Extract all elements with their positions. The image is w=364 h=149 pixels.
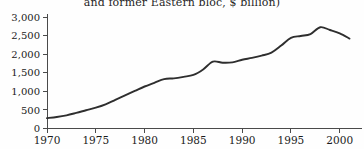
y-axis-tick-label: 3,000	[11, 12, 40, 23]
y-axis-tick-label: 1,500	[11, 67, 40, 78]
y-axis: 05001,0001,5002,0002,5003,000	[11, 12, 47, 135]
chart-container: and former Eastern bloc, $ billion) 0500…	[0, 0, 364, 149]
x-axis-tick-label: 1995	[278, 134, 305, 146]
y-axis-tick-label: 0	[34, 123, 40, 134]
y-axis-tick-label: 2,000	[11, 49, 40, 60]
x-axis-tick-label: 1975	[82, 134, 109, 146]
x-axis-tick-label: 1990	[229, 134, 256, 146]
chart-plot-area: 05001,0001,5002,0002,5003,000 1970197519…	[0, 0, 364, 149]
y-axis-tick-label: 500	[21, 105, 40, 116]
y-axis-tick-label: 2,500	[11, 30, 40, 41]
x-axis-tick-label: 2000	[326, 134, 353, 146]
data-series-line	[47, 27, 350, 118]
x-axis-tick-label: 1985	[180, 134, 207, 146]
x-axis-tick-label: 1970	[34, 134, 61, 146]
y-axis-tick-label: 1,000	[11, 86, 40, 97]
x-axis: 1970197519801985199019952000	[34, 129, 362, 147]
x-axis-tick-label: 1980	[131, 134, 158, 146]
